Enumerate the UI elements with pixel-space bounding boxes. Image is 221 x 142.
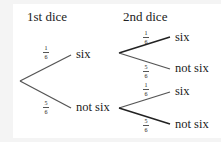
prob-2a-not-six: 56 (143, 64, 149, 79)
outcome-2b-six: six (175, 84, 190, 99)
outcome-2a-six: six (175, 30, 190, 45)
prob-2b-not-six: 56 (143, 118, 149, 133)
prob-1-not-six: 56 (43, 100, 49, 115)
prob-1-six: 16 (43, 45, 49, 60)
header-2nd-dice: 2nd dice (123, 9, 167, 25)
prob-2b-six: 16 (143, 82, 149, 97)
outcome-1-not-six: not six (76, 100, 110, 115)
header-1st-dice: 1st dice (27, 9, 67, 25)
outcome-1-six: six (76, 47, 91, 62)
prob-2a-six: 16 (143, 30, 149, 45)
outcome-2a-not-six: not six (175, 61, 209, 76)
outcome-2b-not-six: not six (175, 117, 209, 132)
